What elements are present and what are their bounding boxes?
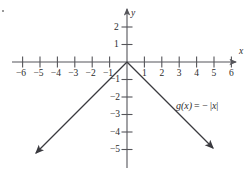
y-tick-label: −4	[110, 128, 120, 138]
equation-argument: (x)	[181, 100, 192, 111]
x-tick-label: −2	[86, 69, 96, 79]
x-tick-label: 6	[229, 69, 234, 79]
y-tick-label: 1	[114, 40, 119, 50]
coordinate-plane-svg	[0, 0, 246, 172]
y-tick-label: −5	[110, 145, 120, 155]
x-axis-label: x	[239, 47, 243, 57]
equation-abs-close: |	[216, 100, 218, 111]
function-equation-label: g(x)= −|x|	[176, 101, 218, 111]
graph-figure: y x −6 −5 −4 −3 −2 −1 1 2 3 4 5 6 2 1 −1…	[0, 0, 246, 172]
x-tick-label: 1	[142, 69, 147, 79]
y-axis-label: y	[131, 9, 135, 19]
x-tick-label: 3	[177, 69, 182, 79]
x-tick-label: −4	[51, 69, 61, 79]
y-tick-label: 2	[114, 23, 119, 33]
x-tick-label: −5	[33, 69, 43, 79]
y-tick-label: −1	[110, 75, 120, 85]
y-axis	[122, 9, 133, 168]
equation-equals-minus: = −	[194, 100, 208, 111]
x-tick-label: −6	[16, 69, 26, 79]
x-tick-label: −3	[68, 69, 78, 79]
x-tick-label: 4	[194, 69, 199, 79]
x-tick-label: 2	[159, 69, 164, 79]
y-tick-label: −2	[110, 93, 120, 103]
y-tick-label: −3	[110, 110, 120, 120]
x-tick-label: 5	[212, 69, 217, 79]
